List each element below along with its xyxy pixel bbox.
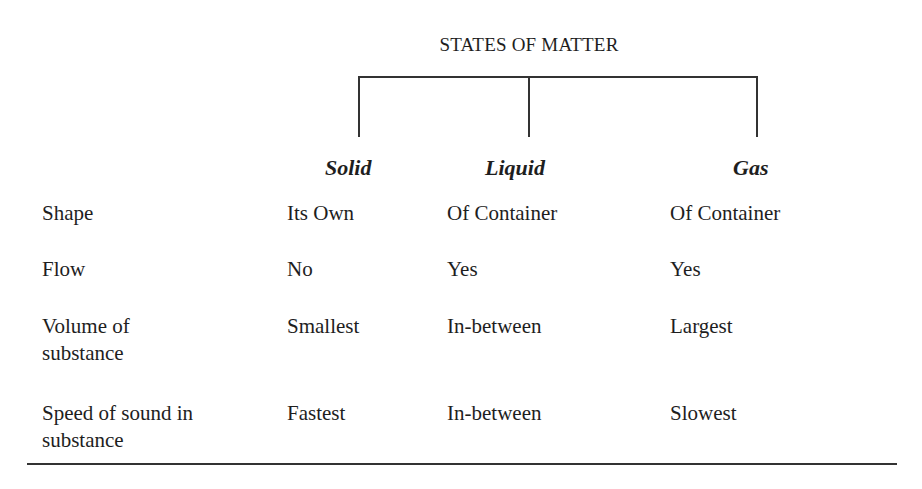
- cell-gas: Largest: [670, 313, 733, 340]
- row-label-line1: Speed of sound in: [42, 400, 193, 427]
- row-label-line1: Volume of: [42, 313, 130, 340]
- bracket-line-solid: [358, 76, 360, 137]
- bottom-rule: [27, 463, 897, 465]
- row-label: Shape: [42, 200, 93, 227]
- cell-gas: Slowest: [670, 400, 737, 427]
- bracket-line-liquid: [528, 76, 530, 137]
- table-title: STATES OF MATTER: [0, 34, 922, 56]
- row-label-line2: substance: [42, 427, 124, 454]
- cell-solid: No: [287, 256, 313, 283]
- cell-solid: Its Own: [287, 200, 354, 227]
- row-label: Flow: [42, 256, 85, 283]
- column-header-gas: Gas: [733, 155, 768, 181]
- cell-solid: Smallest: [287, 313, 359, 340]
- column-header-solid: Solid: [325, 155, 371, 181]
- bracket-horizontal: [358, 76, 758, 78]
- row-label-line2: substance: [42, 340, 124, 367]
- cell-liquid: In-between: [447, 313, 541, 340]
- cell-liquid: In-between: [447, 400, 541, 427]
- cell-gas: Yes: [670, 256, 701, 283]
- cell-solid: Fastest: [287, 400, 345, 427]
- cell-liquid: Yes: [447, 256, 478, 283]
- column-header-liquid: Liquid: [485, 155, 545, 181]
- bracket-line-gas: [756, 76, 758, 137]
- cell-liquid: Of Container: [447, 200, 557, 227]
- cell-gas: Of Container: [670, 200, 780, 227]
